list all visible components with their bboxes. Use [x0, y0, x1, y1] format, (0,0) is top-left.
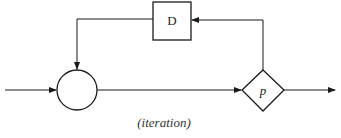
diagram-caption: (iteration)	[137, 115, 190, 130]
iteration-diagram: p D (iteration)	[0, 0, 341, 138]
delay-to-junction-edge	[77, 19, 153, 69]
junction-node	[57, 70, 97, 110]
delay-label: D	[167, 13, 176, 28]
predicate-label: p	[259, 83, 267, 98]
predicate-to-delay-edge	[192, 20, 263, 70]
